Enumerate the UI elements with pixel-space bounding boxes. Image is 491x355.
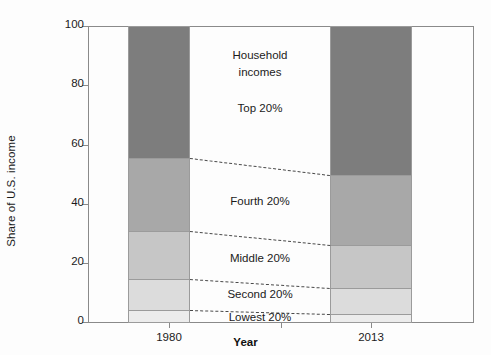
y-axis-line xyxy=(88,26,89,323)
y-tick-label-100: 100 xyxy=(65,18,84,30)
y-tick-label-60: 60 xyxy=(71,137,84,149)
x-axis-title: Year xyxy=(0,336,491,348)
annotation-middle-20: Middle 20% xyxy=(230,252,290,264)
bar-2013-segment-second[interactable] xyxy=(330,288,412,314)
x-tick-label-2013: 2013 xyxy=(331,331,411,343)
bar-1980-segment-fourth[interactable] xyxy=(128,158,190,231)
x-tick-label-1980: 1980 xyxy=(129,331,209,343)
connector-fourth-middle xyxy=(190,231,330,246)
chart-figure: Share of U.S. income Year 0 20 40 60 80 xyxy=(0,0,491,355)
plot-area: 0 20 40 60 80 100 1980 2013 xyxy=(88,26,474,323)
x-tick-mark-1980 xyxy=(169,323,170,328)
x-tick-mark-mid xyxy=(281,323,282,328)
bar-1980-segment-second[interactable] xyxy=(128,279,190,310)
bar-2013-segment-fourth[interactable] xyxy=(330,175,412,245)
y-tick-label-0: 0 xyxy=(78,314,84,326)
y-tick-label-80: 80 xyxy=(71,77,84,89)
annotation-lowest-20: Lowest 20% xyxy=(229,311,292,323)
bar-2013-segment-top[interactable] xyxy=(330,26,412,175)
y-tick-label-20: 20 xyxy=(71,255,84,267)
annotation-second-20: Second 20% xyxy=(227,288,292,300)
bar-2013-segment-middle[interactable] xyxy=(330,245,412,288)
y-tick-label-40: 40 xyxy=(71,196,84,208)
y-axis-title: Share of U.S. income xyxy=(5,106,17,276)
bar-1980-segment-lowest[interactable] xyxy=(128,310,190,323)
bar-2013-segment-lowest[interactable] xyxy=(330,314,412,323)
bar-1980-segment-middle[interactable] xyxy=(128,231,190,279)
annotation-fourth-20: Fourth 20% xyxy=(230,195,289,207)
annotation-incomes: incomes xyxy=(239,66,282,78)
annotation-top-20: Top 20% xyxy=(238,102,283,114)
x-tick-mark-2013 xyxy=(371,323,372,328)
annotation-household: Household xyxy=(233,49,288,61)
connector-top-fourth xyxy=(190,158,330,176)
bar-1980-segment-top[interactable] xyxy=(128,26,190,158)
plot-frame-right xyxy=(473,26,474,323)
